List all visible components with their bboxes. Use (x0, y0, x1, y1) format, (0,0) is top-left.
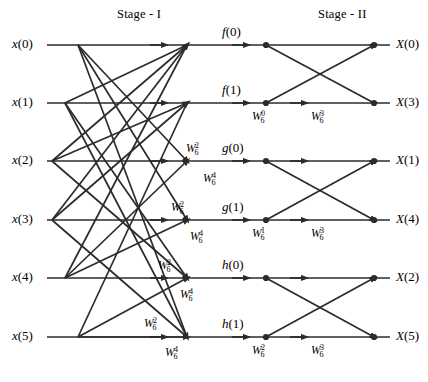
twiddle-stage2-1: W63 (311, 110, 324, 125)
twiddle-stage1-0: W62 (186, 142, 199, 157)
twiddle-stage1-6: W62 (144, 317, 157, 332)
twiddle-stage2-0: W60 (252, 110, 265, 125)
intermediate-label-f1: f(1) (222, 83, 241, 96)
output-label-X0: X(0) (396, 37, 419, 50)
output-label-X1: X(1) (396, 153, 419, 166)
intermediate-label-g1: g(1) (222, 200, 244, 213)
flow-graph-canvas (0, 0, 428, 382)
twiddle-stage1-4: W62 (158, 259, 171, 274)
stage-2-title: Stage - II (318, 8, 367, 21)
input-label-x2: x(2) (12, 153, 33, 166)
stage-1-title: Stage - I (117, 8, 161, 21)
input-label-x3: x(3) (12, 212, 33, 225)
fft-flow-graph-figure: Stage - I Stage - II x(0) x(1) x(2) x(3)… (0, 0, 428, 382)
output-label-X3: X(3) (396, 95, 419, 108)
twiddle-stage1-7: W64 (165, 346, 178, 361)
input-label-x4: x(4) (12, 270, 33, 283)
intermediate-label-h1: h(1) (222, 317, 244, 330)
stage2-butterfly-edges (266, 45, 374, 337)
intermediate-label-f0: f(0) (222, 25, 241, 38)
twiddle-stage1-2: W62 (171, 201, 184, 216)
output-label-X5: X(5) (396, 329, 419, 342)
input-label-x5: x(5) (12, 329, 33, 342)
twiddle-stage1-3: W64 (190, 230, 203, 245)
input-label-x1: x(1) (12, 95, 33, 108)
twiddle-stage2-5: W63 (311, 344, 324, 359)
output-label-X4: X(4) (396, 212, 419, 225)
twiddle-stage2-4: W62 (252, 344, 265, 359)
twiddle-stage1-5: W64 (180, 288, 193, 303)
twiddle-stage1-1: W64 (203, 172, 216, 187)
input-label-x0: x(0) (12, 37, 33, 50)
twiddle-stage2-2: W61 (252, 227, 265, 242)
intermediate-label-h0: h(0) (222, 258, 244, 271)
twiddle-stage2-3: W63 (311, 227, 324, 242)
intermediate-label-g0: g(0) (222, 141, 244, 154)
stage1-butterfly-edges (52, 45, 187, 337)
output-label-X2: X(2) (396, 270, 419, 283)
